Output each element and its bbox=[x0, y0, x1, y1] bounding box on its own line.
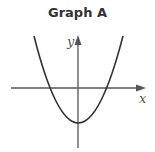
y-axis-label: y bbox=[66, 34, 75, 49]
x-axis-label: x bbox=[139, 91, 147, 106]
y-axis-arrow-icon bbox=[75, 35, 82, 45]
graph-canvas: y x bbox=[0, 0, 155, 152]
